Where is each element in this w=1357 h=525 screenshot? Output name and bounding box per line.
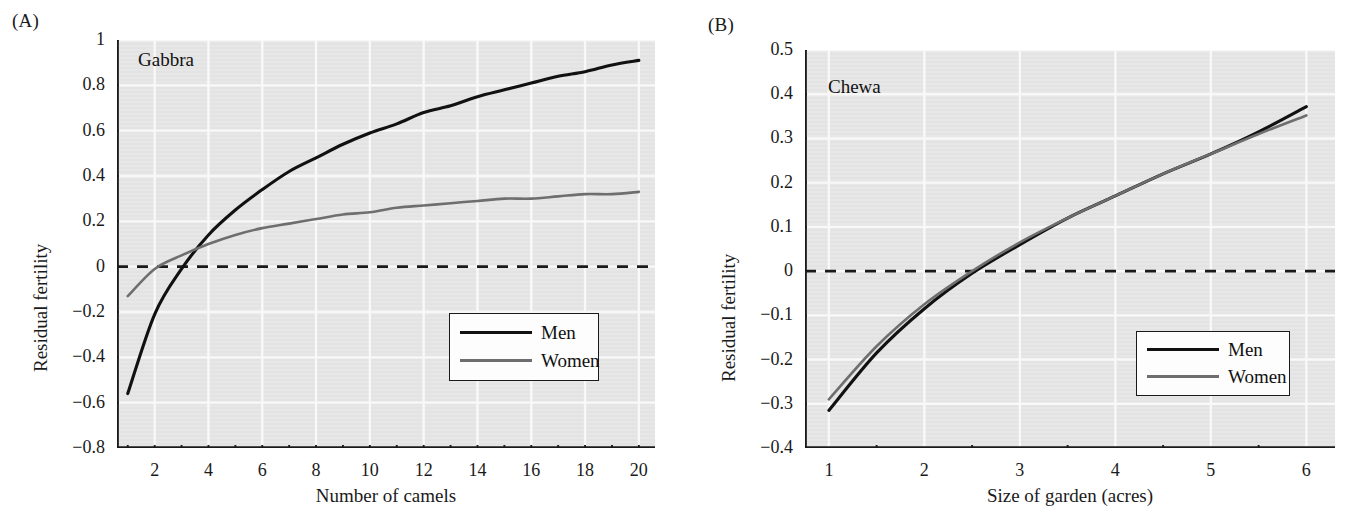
x-axis-tick-label: 2 <box>894 460 954 481</box>
y-axis-tick-label: 1 <box>49 29 105 50</box>
x-axis-tick-label: 6 <box>1276 460 1336 481</box>
y-axis-tick-label: 0.8 <box>49 74 105 95</box>
x-axis-tick-label: 1 <box>799 460 859 481</box>
y-axis-tick-label: −0.1 <box>737 304 793 325</box>
y-axis-tick-label: −0.2 <box>737 349 793 370</box>
panel-a-plot-area: 10.80.60.40.20−0.2−0.4−0.6−0.82468101214… <box>117 40 655 448</box>
x-axis-tick-label: 4 <box>1085 460 1145 481</box>
y-axis-tick-label: 0 <box>49 256 105 277</box>
legend-line-women-icon <box>1147 375 1219 378</box>
x-axis-tick-label: 2 <box>125 460 185 481</box>
y-axis-tick-label: 0.6 <box>49 120 105 141</box>
y-axis-tick-label: 0 <box>737 260 793 281</box>
panel-a-group-label: Gabbra <box>138 49 194 71</box>
panel-b-x-axis-title: Size of garden (acres) <box>805 485 1335 507</box>
legend-line-men-icon <box>1147 348 1219 351</box>
x-axis-tick-label: 3 <box>990 460 1050 481</box>
legend-line-women-icon <box>460 359 532 362</box>
y-axis-tick-label: −0.3 <box>737 393 793 414</box>
y-axis-tick-label: 0.2 <box>737 172 793 193</box>
legend-item-men: Men <box>460 323 576 342</box>
x-axis-tick-label: 8 <box>286 460 346 481</box>
x-axis-tick-label: 18 <box>555 460 615 481</box>
panel-b: (B) Residual fertility Size of garden (a… <box>680 0 1357 525</box>
legend-item-women: Women <box>460 351 600 370</box>
panel-a-tag: (A) <box>12 10 39 32</box>
panel-a-legend: Men Women <box>449 313 599 381</box>
panel-a: (A) Residual fertility Number of camels … <box>0 0 680 525</box>
legend-item-women: Women <box>1147 367 1287 386</box>
x-axis-tick-label: 20 <box>609 460 669 481</box>
y-axis-tick-label: −0.8 <box>49 437 105 458</box>
legend-item-men: Men <box>1147 340 1263 359</box>
legend-line-men-icon <box>460 331 532 334</box>
y-axis-tick-label: −0.2 <box>49 301 105 322</box>
panel-a-plot-svg <box>117 40 655 448</box>
x-axis-tick-label: 16 <box>501 460 561 481</box>
x-axis-tick-label: 4 <box>178 460 238 481</box>
y-axis-tick-label: 0.5 <box>737 39 793 60</box>
panel-b-tag: (B) <box>708 14 734 36</box>
y-axis-tick-label: 0.4 <box>737 83 793 104</box>
legend-label-women: Women <box>1228 367 1287 386</box>
y-axis-tick-label: 0.1 <box>737 216 793 237</box>
figure: (A) Residual fertility Number of camels … <box>0 0 1357 525</box>
y-axis-tick-label: 0.4 <box>49 165 105 186</box>
y-axis-tick-label: 0.2 <box>49 210 105 231</box>
x-axis-tick-label: 12 <box>394 460 454 481</box>
x-axis-tick-label: 10 <box>340 460 400 481</box>
x-axis-tick-label: 5 <box>1181 460 1241 481</box>
legend-label-men: Men <box>541 323 576 342</box>
panel-b-group-label: Chewa <box>828 76 881 98</box>
y-axis-tick-label: −0.4 <box>49 346 105 367</box>
panel-b-legend: Men Women <box>1136 331 1290 396</box>
y-axis-tick-label: −0.6 <box>49 392 105 413</box>
panel-a-x-axis-title: Number of camels <box>117 485 655 507</box>
x-axis-tick-label: 14 <box>447 460 507 481</box>
x-axis-tick-label: 6 <box>232 460 292 481</box>
y-axis-tick-label: 0.3 <box>737 127 793 148</box>
legend-label-men: Men <box>1228 340 1263 359</box>
y-axis-tick-label: −0.4 <box>737 437 793 458</box>
legend-label-women: Women <box>541 351 600 370</box>
